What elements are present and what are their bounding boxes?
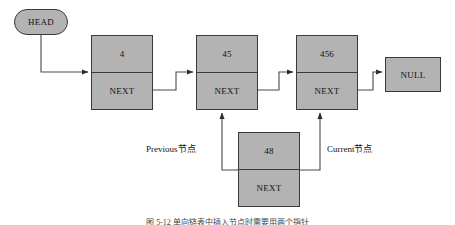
list-node-3[interactable]: 456 NEXT [296, 35, 358, 110]
inserted-node-next: NEXT [239, 170, 299, 207]
connector-head-to-node1 [41, 35, 88, 72]
list-node-3-next: NEXT [297, 73, 357, 110]
null-terminator-label: NULL [400, 70, 425, 80]
connector-node1-to-node2 [153, 72, 193, 90]
figure-caption: 图 5-12 单向链表中插入节点时需要用两个指针 [0, 216, 455, 225]
list-node-2-next: NEXT [197, 73, 257, 110]
inserted-node-data: 48 [239, 133, 299, 170]
connector-node3-to-null [358, 72, 382, 90]
current-pointer-label: Current节点 [327, 142, 373, 155]
list-node-1-next: NEXT [92, 73, 152, 110]
null-terminator-node[interactable]: NULL [385, 57, 441, 92]
connector-node2-to-node3 [258, 72, 293, 90]
head-node-label: HEAD [28, 17, 54, 27]
connector-insert-to-previous [222, 113, 238, 170]
diagram-canvas: HEAD 4 NEXT 45 NEXT 456 NEXT NULL 48 NEX… [0, 0, 455, 225]
list-node-1-data: 4 [92, 36, 152, 73]
list-node-2-data: 45 [197, 36, 257, 73]
list-node-2[interactable]: 45 NEXT [196, 35, 258, 110]
connector-layer [0, 0, 455, 225]
inserted-node[interactable]: 48 NEXT [238, 132, 300, 207]
connector-insert-to-current [300, 113, 320, 170]
list-node-3-data: 456 [297, 36, 357, 73]
previous-pointer-label: Previous节点 [146, 142, 196, 155]
list-node-1[interactable]: 4 NEXT [91, 35, 153, 110]
head-node[interactable]: HEAD [14, 9, 68, 35]
